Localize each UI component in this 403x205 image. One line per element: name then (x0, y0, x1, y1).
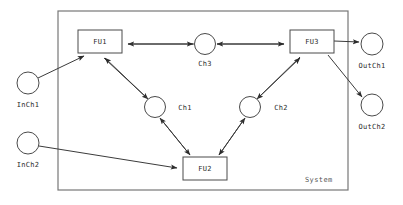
node-inch2-label: InCh2 (17, 161, 40, 169)
edge-fu1-ch1 (104, 58, 148, 99)
edge-inch2-fu2 (39, 146, 177, 168)
edge-fu3-outch1 (334, 41, 359, 42)
node-ch2-label: Ch2 (274, 104, 288, 112)
node-ch3-label: Ch3 (198, 60, 212, 68)
system-architecture-diagram: System (0, 0, 403, 205)
node-ch1[interactable]: Ch1 (145, 97, 192, 118)
node-inch1-label: InCh1 (17, 101, 40, 109)
node-outch1-label: OutCh1 (358, 62, 385, 70)
node-outch2[interactable]: OutCh2 (358, 94, 385, 131)
node-ch2[interactable]: Ch2 (240, 97, 288, 118)
diagram-canvas: System (0, 0, 403, 205)
node-inch1[interactable]: InCh1 (17, 72, 40, 109)
edge-fu2-ch1 (160, 118, 190, 155)
node-ch3[interactable]: Ch3 (195, 34, 216, 69)
node-outch1[interactable]: OutCh1 (358, 33, 385, 70)
edge-fu3-outch2 (328, 55, 362, 97)
node-inch2[interactable]: InCh2 (17, 132, 40, 169)
node-ch1-label: Ch1 (178, 104, 192, 112)
edge-fu3-ch2 (257, 57, 300, 99)
edge-fu2-ch2 (219, 118, 245, 155)
node-fu2[interactable]: FU2 (183, 157, 227, 180)
node-fu3[interactable]: FU3 (290, 30, 334, 53)
system-boundary-label: System (305, 176, 333, 184)
node-fu1[interactable]: FU1 (78, 30, 122, 53)
edge-inch1-fu1 (38, 56, 84, 78)
node-fu1-label: FU1 (93, 38, 107, 46)
node-fu3-label: FU3 (305, 38, 319, 46)
node-outch2-label: OutCh2 (358, 123, 385, 131)
node-fu2-label: FU2 (198, 165, 212, 173)
